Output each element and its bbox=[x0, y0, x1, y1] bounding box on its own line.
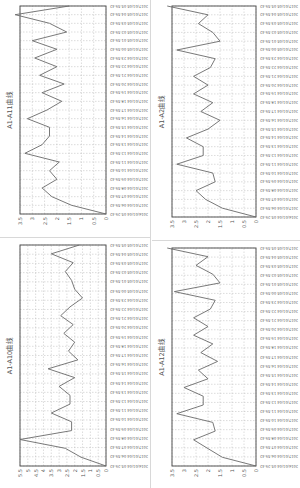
y-tick-label: 3.5 bbox=[169, 469, 175, 477]
x-tick-label: 2017/01/04 19:59:42 bbox=[260, 336, 298, 340]
line-chart: A1-A2曲线00.511.522.533.52016/01/04 05:29:… bbox=[152, 0, 300, 239]
x-tick-label: 2017/01/04 10:59:42 bbox=[260, 418, 298, 422]
x-tick-label: 2017/01/04 20:59:42 bbox=[260, 327, 298, 331]
x-tick-label: 2017/01/04 14:59:42 bbox=[110, 381, 148, 385]
x-tick-label: 2017/01/04 16:59:42 bbox=[260, 364, 298, 368]
grid bbox=[172, 248, 256, 466]
y-tick-label: 1 bbox=[78, 217, 84, 220]
x-tick-label: 2017/01/04 11:59:42 bbox=[110, 160, 148, 164]
x-tick-label: 2017/01/04 09:59:42 bbox=[110, 177, 148, 181]
x-tick-label: 2017/01/04 22:59:42 bbox=[110, 64, 148, 68]
x-tick-label: 2017/01/04 18:59:42 bbox=[110, 99, 148, 103]
y-tick-label: 2.5 bbox=[193, 220, 199, 228]
x-tick-label: 2017/01/04 13:59:42 bbox=[260, 391, 298, 395]
grid bbox=[172, 6, 256, 217]
x-tick-label: 2017/01/04 21:59:42 bbox=[260, 318, 298, 322]
line-chart: A1-A12曲线00.511.522.533.52016/01/04 05:29… bbox=[152, 242, 300, 488]
x-tick-label: 2017/01/05 00:59:42 bbox=[260, 47, 298, 51]
x-tick-label: 2017/01/05 02:59:42 bbox=[260, 273, 298, 277]
chart-title: A1-A10曲线 bbox=[5, 337, 14, 375]
x-tick-label: 2017/01/04 12:59:42 bbox=[260, 400, 298, 404]
x-tick-label: 2017/01/04 15:59:42 bbox=[110, 125, 148, 129]
y-tick-label: 3.5 bbox=[169, 220, 175, 228]
y-tick-label: 1 bbox=[229, 220, 235, 223]
y-tick-label: 2.5 bbox=[64, 469, 70, 477]
x-tick-label: 2017/01/04 23:59:42 bbox=[110, 56, 148, 60]
x-tick-label: 2017/01/05 05:59:42 bbox=[110, 243, 148, 247]
row-divider-right bbox=[152, 240, 300, 241]
x-tick-label: 2017/01/04 09:59:42 bbox=[110, 427, 148, 431]
y-tick-label: 1.5 bbox=[80, 469, 86, 477]
x-tick-label: 2017/01/04 16:59:42 bbox=[260, 118, 298, 122]
x-tick-label: 2017/01/04 08:59:42 bbox=[110, 436, 148, 440]
y-tick-label: 0.5 bbox=[241, 220, 247, 228]
x-tick-label: 2017/01/04 11:59:42 bbox=[110, 408, 148, 412]
x-tick-label: 2017/01/05 04:59:42 bbox=[260, 255, 298, 259]
x-tick-label: 2017/01/04 14:59:42 bbox=[110, 134, 148, 138]
chart-a1-a11: A1-A11曲线00.511.522.533.52016/01/04 05:29… bbox=[0, 0, 150, 236]
x-tick-label: 2016/01/04 05:29:42 bbox=[260, 215, 298, 219]
x-tick-label: 2017/01/04 14:59:42 bbox=[260, 382, 298, 386]
y-tick-label: 4 bbox=[40, 469, 46, 472]
x-tick-label: 2017/01/04 17:59:42 bbox=[260, 355, 298, 359]
x-tick-label: 2017/01/04 10:59:42 bbox=[110, 168, 148, 172]
y-tick-label: 2 bbox=[205, 469, 211, 472]
x-tick-label: 2017/01/04 06:59:42 bbox=[110, 454, 148, 458]
x-tick-label: 2017/01/04 17:59:42 bbox=[260, 109, 298, 113]
x-tick-label: 2017/01/04 18:59:42 bbox=[260, 345, 298, 349]
x-tick-label: 2017/01/04 17:59:42 bbox=[110, 108, 148, 112]
x-tick-label: 2017/01/05 03:59:42 bbox=[260, 264, 298, 268]
x-tick-label: 2017/01/05 03:59:42 bbox=[260, 21, 298, 25]
line-chart: A1-A10曲线00.511.522.533.544.555.52016/01/… bbox=[0, 239, 150, 488]
x-tick-label: 2017/01/04 07:59:42 bbox=[260, 197, 298, 201]
chart-cell-a1-a2: A1-A2曲线00.511.522.533.52016/01/04 05:29:… bbox=[152, 0, 300, 239]
x-tick-label: 2017/01/04 22:59:42 bbox=[260, 65, 298, 69]
x-tick-label: 2017/01/05 01:59:42 bbox=[110, 38, 148, 42]
x-tick-label: 2017/01/04 06:59:42 bbox=[260, 454, 298, 458]
x-tick-label: 2017/01/04 08:59:42 bbox=[260, 436, 298, 440]
x-tick-label: 2017/01/04 20:59:42 bbox=[110, 325, 148, 329]
grid bbox=[20, 245, 106, 466]
x-tick-label: 2017/01/05 00:59:42 bbox=[110, 289, 148, 293]
line-chart: A1-A11曲线00.511.522.533.52016/01/04 05:29… bbox=[0, 0, 150, 236]
x-tick-label: 2017/01/05 05:59:42 bbox=[260, 4, 298, 8]
x-tick-label: 2017/01/04 22:59:42 bbox=[260, 309, 298, 313]
x-tick-label: 2017/01/04 12:59:42 bbox=[110, 151, 148, 155]
x-tick-label: 2017/01/05 03:59:42 bbox=[110, 21, 148, 25]
chart-a1-a2: A1-A2曲线00.511.522.533.52016/01/04 05:29:… bbox=[152, 0, 300, 239]
x-tick-label: 2017/01/05 05:59:42 bbox=[260, 246, 298, 250]
x-tick-label: 2017/01/04 12:59:42 bbox=[260, 153, 298, 157]
x-tick-label: 2017/01/04 08:59:42 bbox=[260, 188, 298, 192]
x-tick-label: 2017/01/04 10:59:42 bbox=[260, 171, 298, 175]
y-tick-label: 3.5 bbox=[48, 469, 54, 477]
y-tick-label: 2.5 bbox=[193, 469, 199, 477]
chart-a1-a12: A1-A12曲线00.511.522.533.52016/01/04 05:29… bbox=[152, 242, 300, 488]
x-tick-label: 2016/01/04 05:29:42 bbox=[260, 464, 298, 468]
x-tick-label: 2016/01/04 05:29:42 bbox=[110, 464, 148, 468]
y-tick-label: 4.5 bbox=[33, 469, 39, 477]
x-tick-label: 2017/01/05 01:59:42 bbox=[260, 282, 298, 286]
chart-cell-a1-a12: A1-A12曲线00.511.522.533.52016/01/04 05:29… bbox=[152, 242, 300, 488]
x-tick-label: 2017/01/04 20:59:42 bbox=[260, 83, 298, 87]
x-tick-label: 2017/01/04 09:59:42 bbox=[260, 179, 298, 183]
x-tick-label: 2017/01/05 05:59:42 bbox=[110, 4, 148, 8]
y-tick-label: 0.5 bbox=[241, 469, 247, 477]
y-tick-label: 2 bbox=[54, 217, 60, 220]
x-tick-label: 2017/01/05 04:59:42 bbox=[110, 12, 148, 16]
x-tick-label: 2017/01/05 02:59:42 bbox=[110, 30, 148, 34]
x-tick-label: 2017/01/05 03:59:42 bbox=[110, 261, 148, 265]
x-tick-label: 2017/01/04 19:59:42 bbox=[110, 335, 148, 339]
y-tick-label: 3 bbox=[181, 220, 187, 223]
x-tick-label: 2017/01/04 19:59:42 bbox=[260, 91, 298, 95]
x-tick-label: 2017/01/04 06:59:42 bbox=[260, 206, 298, 210]
y-tick-label: 1.5 bbox=[66, 217, 72, 225]
y-tick-label: 1.5 bbox=[217, 469, 223, 477]
x-tick-label: 2017/01/04 20:59:42 bbox=[110, 82, 148, 86]
y-tick-label: 5 bbox=[25, 469, 31, 472]
chart-title: A1-A12曲线 bbox=[157, 338, 166, 376]
x-tick-label: 2017/01/04 11:59:42 bbox=[260, 162, 298, 166]
x-tick-label: 2017/01/04 13:59:42 bbox=[110, 390, 148, 394]
x-tick-label: 2017/01/04 14:59:42 bbox=[260, 135, 298, 139]
y-tick-label: 3.5 bbox=[17, 217, 23, 225]
chart-cell-a1-a10: A1-A10曲线00.511.522.533.544.555.52016/01/… bbox=[0, 239, 150, 488]
